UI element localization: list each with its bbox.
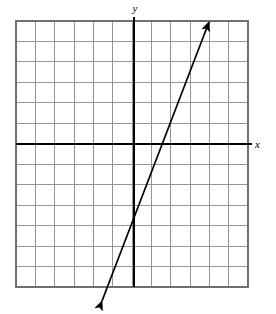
coordinate-plane-figure: y x [0,0,276,314]
x-axis-label: x [255,139,267,150]
y-axis-label: y [129,3,141,14]
graph-canvas [0,0,276,314]
